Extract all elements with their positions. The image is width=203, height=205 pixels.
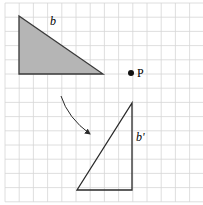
rotation-diagram: b P b'	[0, 0, 203, 205]
rotation-arrow-icon	[61, 96, 90, 134]
triangle-b-prime-label: b'	[136, 130, 145, 144]
point-p-marker	[128, 70, 134, 76]
point-p-label: P	[137, 66, 144, 80]
triangle-b-label: b	[50, 14, 56, 28]
